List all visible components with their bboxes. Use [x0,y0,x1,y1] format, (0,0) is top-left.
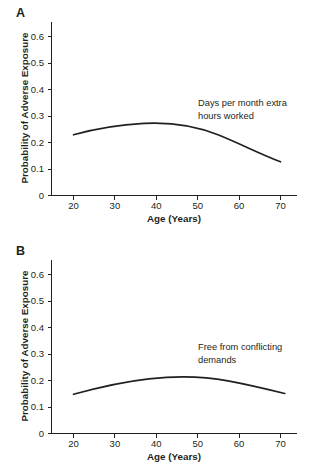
panel-a-annotation-line2: hours worked [198,111,254,121]
panel-b-ytick-label-3: 0.3 [31,348,44,359]
panel-b-ytick-label-6: 0.6 [31,269,44,280]
panel-a-xtick-label-30: 30 [110,200,121,211]
panel-a-ytick-label-1: 0.1 [31,163,44,174]
panel-a-xtick-label-40: 40 [151,200,162,211]
panel-a-xtick-label-20: 20 [68,200,79,211]
panel-b-data-curve [74,377,285,394]
panel-b-xtick-label-70: 70 [275,438,286,449]
panel-a-ytick-label-4: 0.4 [31,84,44,95]
panel-a-annotation-line1: Days per month extra [198,98,288,108]
panel-a-data-curve [74,123,281,162]
panel-a-xtick-label-60: 60 [234,200,245,211]
panel-b-annotation-line2: demands [198,355,237,365]
panel-b-ytick-label-4: 0.4 [31,322,44,333]
panel-b-xtick-label-20: 20 [68,438,79,449]
caption-strip-truncated [0,466,321,475]
panel-b-ytick-label-0: 0 [39,428,44,439]
panel-a-ytick-label-3: 0.3 [31,110,44,121]
panel-a-ytick-label-6: 0.6 [31,31,44,42]
figure-two-panel-line-charts: A 0 0.1 0.2 0.3 0.4 0.5 0.6 [0,0,321,475]
panel-b-xtick-label-30: 30 [110,438,121,449]
panel-a-plot: 0 0.1 0.2 0.3 0.4 0.5 0.6 20 30 40 50 60… [0,0,321,237]
panel-a-y-axis-title: Probability of Adverse Exposure [19,32,30,184]
panel-a: A 0 0.1 0.2 0.3 0.4 0.5 0.6 [0,0,321,237]
panel-b: B 0 0.1 0.2 0.3 0.4 0.5 0.6 20 [0,238,321,475]
panel-b-ytick-label-2: 0.2 [31,375,44,386]
panel-b-xtick-label-60: 60 [234,438,245,449]
panel-a-ytick-label-5: 0.5 [31,57,44,68]
panel-b-x-axis-title: Age (Years) [147,451,201,462]
panel-a-ytick-label-0: 0 [39,190,44,201]
panel-b-xtick-label-40: 40 [151,438,162,449]
panel-a-x-axis-title: Age (Years) [147,213,201,224]
panel-b-ytick-label-5: 0.5 [31,295,44,306]
panel-b-plot: 0 0.1 0.2 0.3 0.4 0.5 0.6 20 30 40 50 60… [0,238,321,475]
panel-b-annotation-line1: Free from conflicting [198,342,282,352]
panel-b-y-axis-title: Probability of Adverse Exposure [19,270,30,422]
panel-b-xtick-label-50: 50 [192,438,203,449]
panel-a-xtick-label-50: 50 [192,200,203,211]
panel-a-ytick-label-2: 0.2 [31,137,44,148]
panel-b-ytick-label-1: 0.1 [31,401,44,412]
panel-a-xtick-label-70: 70 [275,200,286,211]
